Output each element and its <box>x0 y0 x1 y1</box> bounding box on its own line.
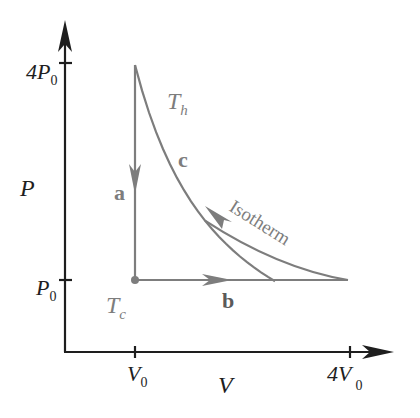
cycle <box>129 65 348 286</box>
y-axis-label: P <box>19 175 35 201</box>
x-tick-label-4v0: 4V0 <box>327 361 362 393</box>
state-point-tc <box>131 276 139 284</box>
process-a-label: a <box>114 180 125 205</box>
pv-diagram: 4P0 P0 V0 4V0 P V a b c Th Tc Isotherm <box>0 0 420 418</box>
x-axis-label: V <box>218 372 235 398</box>
hot-temperature-label: Th <box>167 88 188 118</box>
y-tick-label-p0: P0 <box>35 275 56 304</box>
isotherm-label: Isotherm <box>226 196 295 250</box>
x-tick-label-v0: V0 <box>127 361 147 390</box>
cold-temperature-label: Tc <box>106 292 126 322</box>
process-c-label: c <box>178 147 188 172</box>
process-b-label: b <box>222 288 234 313</box>
y-tick-label-4p0: 4P0 <box>26 59 57 88</box>
